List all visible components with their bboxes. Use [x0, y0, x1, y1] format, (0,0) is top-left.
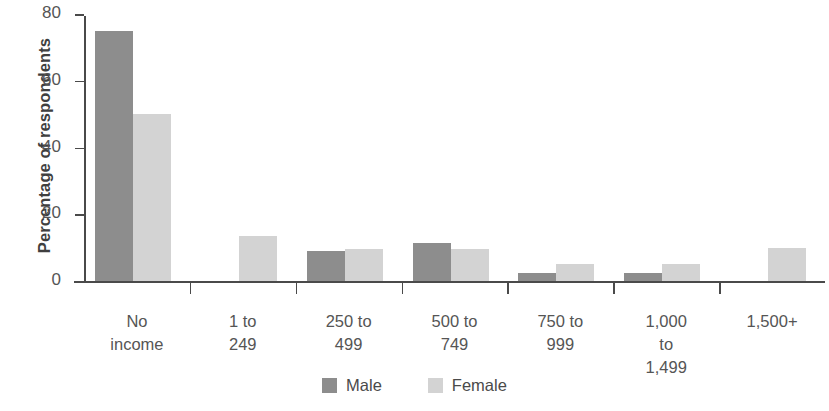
- y-axis-line: [84, 16, 86, 283]
- bar-female: [662, 264, 700, 281]
- category-label-line: 1,500+: [719, 310, 825, 333]
- category-label-line: 250 to: [296, 310, 402, 333]
- x-axis-tick: [613, 282, 615, 294]
- legend-swatch-female: [428, 378, 443, 393]
- category-label-line: 249: [190, 333, 296, 356]
- bar-male: [413, 243, 451, 281]
- bar-female: [133, 114, 171, 281]
- y-axis-tick: 80: [75, 14, 84, 16]
- x-axis-category-label: 1,500+: [719, 310, 825, 333]
- category-label-line: income: [84, 333, 190, 356]
- chart-legend: MaleFemale: [0, 376, 829, 395]
- legend-label-male: Male: [346, 376, 382, 395]
- x-axis-tick: [719, 282, 721, 294]
- legend-label-female: Female: [452, 376, 507, 395]
- bar-female: [556, 264, 594, 281]
- legend-item-female: Female: [428, 376, 507, 395]
- y-axis-tick-label: 20: [42, 203, 61, 223]
- bar-male: [624, 273, 662, 281]
- x-axis-category-label: 250 to499: [296, 310, 402, 356]
- y-axis-tick-label: 0: [52, 270, 61, 290]
- legend-swatch-male: [322, 378, 337, 393]
- bar-female: [768, 248, 806, 281]
- bar-female: [345, 249, 383, 281]
- bar-male: [518, 273, 556, 281]
- y-axis-tick-label: 60: [42, 70, 61, 90]
- bar-male: [95, 31, 133, 281]
- x-axis-category-label: 750 to999: [507, 310, 613, 356]
- y-axis-tick: 60: [75, 81, 84, 83]
- plot-area: 020406080 Noincome1 to249250 to499500 to…: [84, 14, 825, 282]
- x-axis-line: [74, 281, 825, 283]
- category-label-line: 1 to: [190, 310, 296, 333]
- category-label-line: to: [613, 333, 719, 356]
- x-axis-category-label: 500 to749: [402, 310, 508, 356]
- y-axis-tick: 20: [75, 214, 84, 216]
- x-axis-tick: [402, 282, 404, 294]
- x-axis-category-label: Noincome: [84, 310, 190, 356]
- y-axis-tick-label: 80: [42, 3, 61, 23]
- category-label-line: 500 to: [402, 310, 508, 333]
- bar-male: [307, 251, 345, 281]
- category-label-line: 1,000: [613, 310, 719, 333]
- y-axis-tick: 40: [75, 148, 84, 150]
- category-label-line: No: [84, 310, 190, 333]
- x-axis-tick: [190, 282, 192, 294]
- x-axis-category-label: 1 to249: [190, 310, 296, 356]
- bar-female: [451, 249, 489, 281]
- category-label-line: 999: [507, 333, 613, 356]
- category-label-line: 750 to: [507, 310, 613, 333]
- category-label-line: 749: [402, 333, 508, 356]
- bar-female: [239, 236, 277, 281]
- y-axis-tick-label: 40: [42, 137, 61, 157]
- y-axis-tick: 0: [75, 281, 84, 283]
- category-label-line: 499: [296, 333, 402, 356]
- x-axis-tick: [296, 282, 298, 294]
- x-axis-category-label: 1,000to1,499: [613, 310, 719, 379]
- legend-item-male: Male: [322, 376, 382, 395]
- x-axis-tick: [507, 282, 509, 294]
- bar-chart: Percentage of respondents 020406080 Noin…: [0, 0, 829, 411]
